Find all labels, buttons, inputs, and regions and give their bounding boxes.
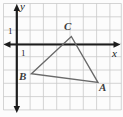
vertex-label-b: B: [19, 71, 26, 82]
x-axis-label: x: [112, 48, 117, 59]
vertex-label-c: C: [64, 21, 71, 32]
figure-canvas: [0, 0, 123, 117]
coordinate-plane-figure: y x 1 1 B C A: [0, 0, 123, 117]
x-axis-arrow-left-icon: [4, 41, 11, 47]
vertex-label-a: A: [99, 82, 106, 93]
x-axis-tick-1: 1: [21, 49, 26, 58]
y-axis-label: y: [20, 1, 25, 12]
y-axis-tick-1: 1: [8, 27, 13, 36]
